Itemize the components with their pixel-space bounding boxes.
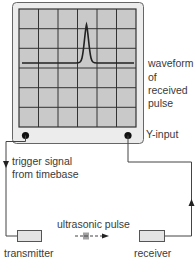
trigger-label-line-1: trigger signal [12,155,72,167]
y-input-label: Y-input [146,128,178,140]
pulse-arrow-icon [102,234,109,239]
receiver-label: receiver [134,247,171,259]
ultrasonic-pulse-label: ultrasonic pulse [57,218,130,230]
waveform-label-line-2: of [148,71,157,83]
trigger-label-line-2: from timebase [12,168,79,180]
transmitter-label: transmitter [4,247,54,259]
waveform-label-line-1: waveform [148,57,194,69]
waveform-label-line-4: pulse [148,97,173,109]
receiver-box [140,231,165,242]
signal-arrow-icon [189,199,195,206]
trigger-arrow-icon [3,161,9,168]
y-input-wire [128,136,192,237]
waveform-label-line-3: received [148,84,188,96]
trigger-wire [6,136,26,237]
transmitter-box [18,231,42,242]
ultrasonic-pulse-symbol [75,233,102,240]
